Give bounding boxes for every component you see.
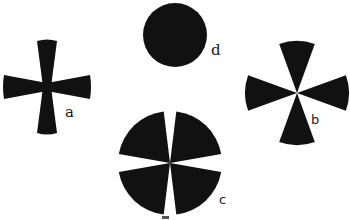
stray-mark — [162, 216, 169, 219]
label-b: b — [311, 112, 319, 127]
shape-a-flared-cross — [3, 40, 91, 135]
shape-b-narrow-sectors — [245, 41, 349, 145]
shape-d-circle — [143, 3, 207, 67]
label-c: c — [219, 192, 226, 207]
shape-c-wide-sectors — [119, 111, 221, 214]
figure-canvas: a d b c — [0, 0, 350, 220]
label-a: a — [65, 103, 74, 121]
label-d: d — [211, 41, 221, 59]
